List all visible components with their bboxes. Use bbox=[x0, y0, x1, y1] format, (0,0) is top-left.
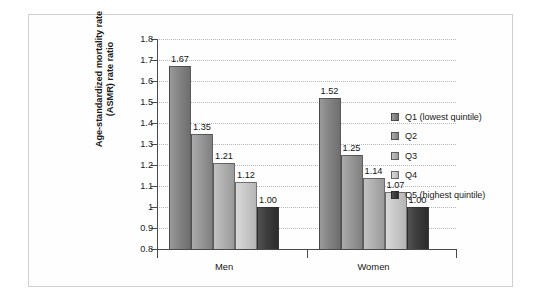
bar-value-label: 1.21 bbox=[209, 151, 239, 161]
y-tick-label: 1.1 bbox=[127, 181, 153, 191]
y-tick-label: 1.2 bbox=[127, 160, 153, 170]
bar-value-label: 1.52 bbox=[315, 86, 345, 96]
x-axis-tick bbox=[456, 249, 457, 258]
legend-item[interactable]: Q1 (lowest quintile) bbox=[391, 107, 541, 127]
x-axis-tick bbox=[307, 249, 308, 258]
y-tick-label: 0.8 bbox=[127, 244, 153, 254]
y-tick-label: 1.7 bbox=[127, 55, 153, 65]
bar bbox=[235, 182, 257, 249]
legend-item-label: Q4 bbox=[405, 170, 417, 180]
y-axis-title-line-2: (ASMR) rate ratio bbox=[105, 42, 116, 116]
chart-page: Age-standardized mortality rate (ASMR) r… bbox=[0, 0, 541, 302]
legend-swatch-icon bbox=[391, 132, 399, 140]
bar bbox=[407, 207, 429, 249]
x-axis-group-label: Women bbox=[357, 261, 389, 272]
y-tick-label: 1.4 bbox=[127, 118, 153, 128]
y-axis-title: Age-standardized mortality rate (ASMR) r… bbox=[88, 0, 122, 174]
bar-value-label: 1.12 bbox=[231, 170, 261, 180]
legend-swatch-icon bbox=[391, 113, 399, 121]
legend-item[interactable]: Q2 bbox=[391, 127, 541, 147]
legend: Q1 (lowest quintile)Q2Q3Q4Q5 (highest qu… bbox=[391, 107, 541, 205]
y-tick-label: 1.3 bbox=[127, 139, 153, 149]
x-axis-group-label: Men bbox=[215, 261, 233, 272]
y-tick-label: 1.6 bbox=[127, 76, 153, 86]
bar-value-label: 1.35 bbox=[187, 122, 217, 132]
legend-swatch-icon bbox=[391, 191, 399, 199]
bar-value-label: 1.00 bbox=[253, 195, 283, 205]
bar-value-label: 1.25 bbox=[337, 143, 367, 153]
y-tick-label: 1.5 bbox=[127, 97, 153, 107]
legend-swatch-icon bbox=[391, 152, 399, 160]
figure-frame: Age-standardized mortality rate (ASMR) r… bbox=[28, 14, 513, 287]
y-tick-label: 1 bbox=[127, 202, 153, 212]
legend-item[interactable]: Q5 (highest quintile) bbox=[391, 185, 541, 205]
legend-item-label: Q3 bbox=[405, 151, 417, 161]
y-axis-title-line-1: Age-standardized mortality rate bbox=[94, 11, 105, 147]
bar bbox=[319, 98, 341, 249]
legend-item-label: Q5 (highest quintile) bbox=[405, 190, 485, 200]
bar-value-label: 1.67 bbox=[165, 54, 195, 64]
bar bbox=[169, 66, 191, 249]
legend-item-label: Q2 bbox=[405, 131, 417, 141]
legend-swatch-icon bbox=[391, 171, 399, 179]
legend-item-label: Q1 (lowest quintile) bbox=[405, 112, 482, 122]
x-axis-tick bbox=[157, 249, 158, 258]
legend-item[interactable]: Q3 bbox=[391, 146, 541, 166]
y-tick-label: 1.8 bbox=[127, 34, 153, 44]
bar-value-label: 1.14 bbox=[359, 166, 389, 176]
bar bbox=[257, 207, 279, 249]
legend-item[interactable]: Q4 bbox=[391, 166, 541, 186]
y-tick-label: 0.9 bbox=[127, 223, 153, 233]
